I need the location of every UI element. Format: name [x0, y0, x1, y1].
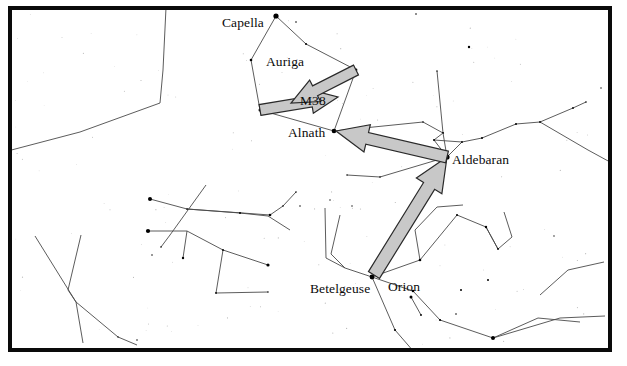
faint-field-star	[412, 82, 413, 83]
faint-field-star	[332, 333, 333, 334]
star-marker	[351, 205, 352, 206]
faint-field-star	[483, 270, 484, 271]
faint-field-star	[198, 325, 199, 326]
faint-field-star	[16, 239, 17, 240]
star-marker	[410, 296, 413, 299]
faint-field-star	[373, 88, 374, 89]
star-marker	[433, 139, 435, 141]
faint-field-star	[494, 58, 495, 59]
faint-field-star	[453, 101, 454, 102]
star-marker	[295, 191, 297, 193]
star-marker	[222, 249, 224, 251]
star-marker	[146, 229, 150, 233]
star-marker	[497, 248, 499, 250]
star-marker	[136, 339, 138, 341]
star-marker	[419, 259, 422, 262]
faint-field-star	[164, 207, 165, 208]
faint-field-star	[225, 217, 226, 218]
faint-field-star	[43, 72, 44, 73]
constellation-line	[76, 302, 137, 345]
faint-field-star	[372, 182, 373, 183]
faint-field-star	[449, 337, 450, 338]
label-auriga: Auriga	[266, 54, 304, 70]
faint-field-star	[165, 222, 166, 223]
star-marker	[439, 319, 441, 321]
star-marker	[491, 336, 495, 340]
faint-field-star	[264, 238, 265, 239]
star-marker	[267, 291, 269, 293]
star-marker	[585, 101, 587, 103]
star-marker	[299, 205, 301, 207]
faint-field-star	[158, 70, 159, 71]
faint-field-star	[76, 164, 77, 165]
faint-field-star	[470, 28, 471, 29]
star-marker	[420, 314, 422, 316]
faint-field-star	[366, 95, 367, 96]
constellation-line	[183, 231, 187, 258]
star-marker	[481, 137, 483, 139]
star-marker	[186, 208, 188, 210]
faint-field-star	[517, 291, 518, 292]
constellation-line	[148, 231, 268, 265]
faint-field-star	[360, 208, 361, 209]
faint-field-star	[22, 159, 23, 160]
star-marker	[269, 214, 272, 217]
faint-field-star	[436, 106, 437, 107]
faint-field-star	[510, 246, 511, 247]
faint-field-star	[91, 33, 92, 34]
faint-field-star	[520, 64, 521, 65]
faint-field-star	[360, 119, 361, 120]
faint-field-star	[377, 119, 378, 120]
faint-field-star	[99, 329, 100, 330]
faint-field-star	[15, 100, 16, 101]
faint-field-star	[562, 257, 563, 258]
constellation-line	[540, 122, 610, 162]
faint-field-star	[337, 33, 338, 34]
faint-field-star	[259, 84, 260, 85]
faint-field-star	[133, 277, 134, 278]
star-marker	[394, 329, 396, 331]
faint-field-star	[227, 317, 228, 318]
faint-field-star	[442, 133, 443, 134]
faint-field-star	[560, 170, 561, 171]
star-marker	[456, 214, 458, 216]
star-marker	[215, 292, 217, 294]
faint-field-star	[544, 229, 545, 230]
faint-field-star	[278, 237, 279, 238]
star-marker	[455, 313, 457, 315]
star-marker	[485, 226, 487, 228]
label-orion: Orion	[388, 279, 420, 295]
faint-field-star	[233, 132, 234, 133]
constellation-line	[486, 212, 512, 249]
faint-field-star	[243, 53, 244, 54]
faint-field-star	[462, 134, 463, 135]
faint-field-star	[175, 96, 176, 97]
star-marker	[182, 257, 184, 259]
faint-field-star	[288, 20, 289, 21]
faint-field-star	[444, 245, 445, 246]
faint-field-star	[325, 303, 326, 304]
star-marker	[379, 176, 381, 178]
faint-field-star	[147, 308, 148, 309]
faint-field-star	[148, 323, 149, 324]
faint-field-star	[433, 95, 434, 96]
faint-field-star	[487, 47, 488, 48]
faint-field-star	[30, 14, 31, 15]
faint-field-star	[27, 81, 28, 82]
faint-field-star	[337, 100, 338, 101]
faint-field-star	[523, 289, 524, 290]
constellation-line	[540, 262, 604, 295]
faint-field-star	[168, 195, 169, 196]
faint-field-star	[246, 60, 247, 61]
star-marker	[329, 199, 330, 200]
faint-field-star	[172, 262, 173, 263]
star-chart-page: CapellaAurigaM38AlnathAldebaranBetelgeus…	[0, 0, 627, 366]
star-marker	[266, 263, 269, 266]
arrow-betelgeuse-to-aldebaran	[368, 157, 447, 278]
constellation-line	[493, 318, 580, 338]
faint-field-star	[342, 103, 343, 104]
faint-field-star	[401, 166, 402, 167]
faint-field-star	[168, 95, 169, 96]
faint-field-star	[340, 207, 341, 208]
faint-field-star	[232, 149, 233, 150]
